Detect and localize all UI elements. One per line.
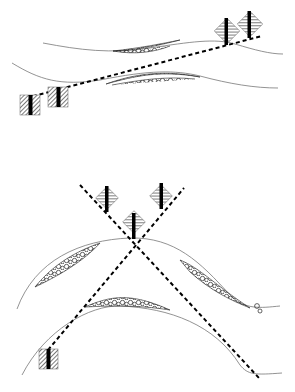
gravel-pebble	[255, 304, 260, 309]
gravel-lens-crest	[85, 298, 170, 310]
bottom-panel	[17, 183, 282, 378]
well-left-1	[20, 95, 40, 115]
top-panel	[12, 11, 283, 115]
well-crest-center	[123, 211, 146, 239]
diagram-canvas	[0, 0, 295, 392]
gravel-lens-upper	[113, 40, 180, 53]
well-crest-right	[150, 183, 173, 209]
well-crest-left	[96, 186, 119, 212]
gravel-pebble	[258, 309, 262, 313]
bed-line-lower-arch	[22, 306, 282, 375]
well-right-2	[237, 11, 262, 38]
correlation-line-descending	[80, 185, 259, 378]
gravel-lens-left-flank	[35, 243, 100, 287]
well-bottom-left	[39, 349, 58, 369]
well-left-2	[48, 87, 68, 107]
gravel-lens-right-flank	[180, 260, 250, 308]
gravel-lens-lower	[106, 73, 200, 85]
